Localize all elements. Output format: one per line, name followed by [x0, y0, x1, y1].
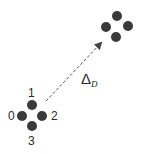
- delta-label: ΔD: [81, 70, 98, 89]
- label-1: 1: [28, 86, 35, 100]
- source-cluster: 0 1 2 3: [8, 86, 58, 148]
- dot-1: [27, 100, 37, 110]
- label-3: 3: [28, 134, 35, 148]
- target-dot-bottom: [111, 32, 121, 42]
- target-cluster: [101, 11, 133, 42]
- displacement-arrow: [46, 43, 101, 101]
- dot-0: [17, 111, 27, 121]
- target-dot-left: [101, 22, 111, 32]
- target-dot-top: [112, 11, 122, 21]
- target-dot-right: [123, 21, 133, 31]
- dot-2: [37, 111, 47, 121]
- dot-3: [27, 121, 37, 131]
- displacement-diagram: 0 1 2 3 ΔD: [0, 0, 143, 154]
- label-0: 0: [8, 109, 15, 123]
- label-2: 2: [51, 109, 58, 123]
